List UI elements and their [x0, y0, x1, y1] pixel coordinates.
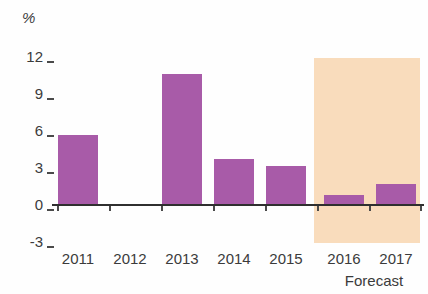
x-axis-tick	[317, 206, 319, 211]
bar-2011	[58, 135, 98, 205]
x-axis-tick	[109, 206, 111, 211]
x-axis-tick	[57, 206, 59, 211]
bar-chart: % 12 9 6 3 0 -3 2011	[0, 0, 428, 294]
x-axis-label-2017: 2017	[368, 250, 424, 267]
x-axis-tick	[161, 206, 163, 211]
x-axis-label-2012: 2012	[102, 250, 158, 267]
x-axis-label-2013: 2013	[154, 250, 210, 267]
bar-2017	[376, 184, 416, 205]
bar-2014	[214, 159, 254, 205]
bar-2013	[162, 74, 202, 205]
forecast-caption: Forecast	[330, 272, 418, 289]
x-axis-tick	[369, 206, 371, 211]
x-axis-tick	[213, 206, 215, 211]
x-axis-tick	[265, 206, 267, 211]
x-axis-tick	[420, 206, 422, 211]
x-axis-label-2011: 2011	[50, 250, 106, 267]
x-axis-label-2015: 2015	[258, 250, 314, 267]
x-axis-label-2016: 2016	[316, 250, 372, 267]
bar-2015	[266, 166, 306, 205]
x-axis-label-2014: 2014	[206, 250, 262, 267]
